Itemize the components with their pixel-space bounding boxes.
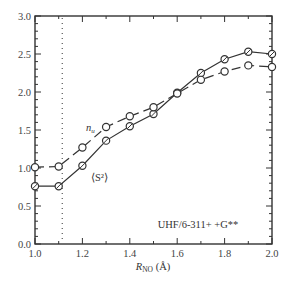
- chart: 1.01.21.41.61.82.00.00.51.01.52.02.53.0 …: [0, 0, 284, 291]
- x-tick-label: 1.2: [76, 248, 89, 259]
- y-tick-label: 3.0: [18, 11, 31, 22]
- nu-marker: [174, 90, 181, 97]
- x-tick-label: 2.0: [265, 248, 278, 259]
- x-tick-label: 1.6: [171, 248, 184, 259]
- nu-marker: [55, 163, 62, 170]
- y-tick-label: 1.0: [18, 163, 31, 174]
- s2-series-label: ⟨S²⟩: [91, 172, 108, 183]
- x-axis-label: RNO (Å): [135, 261, 171, 274]
- plot-frame: [35, 16, 272, 244]
- nu-marker: [221, 68, 228, 75]
- nu-marker: [126, 113, 133, 120]
- x-tick-label: 1.4: [123, 248, 137, 259]
- y-tick-label: 0.5: [18, 201, 31, 212]
- nu-marker: [197, 76, 204, 83]
- nu-marker: [79, 144, 86, 151]
- y-tick-label: 1.5: [18, 125, 31, 136]
- y-tick-label: 0.0: [18, 239, 31, 250]
- series-layer: [31, 48, 275, 190]
- y-tick-label: 2.0: [18, 87, 31, 98]
- y-tick-label: 2.5: [18, 49, 31, 60]
- s2-line: [35, 52, 272, 187]
- axes: 1.01.21.41.61.82.00.00.51.01.52.02.53.0: [18, 11, 279, 259]
- nu-marker: [150, 104, 157, 111]
- nu-series-label: nu: [86, 122, 95, 135]
- method-annotation: UHF/6-311+ +G**: [158, 219, 239, 230]
- nu-marker: [103, 123, 110, 130]
- nu-marker: [245, 62, 252, 69]
- x-tick-label: 1.8: [218, 248, 231, 259]
- nu-marker: [268, 63, 275, 70]
- nu-marker: [31, 164, 38, 171]
